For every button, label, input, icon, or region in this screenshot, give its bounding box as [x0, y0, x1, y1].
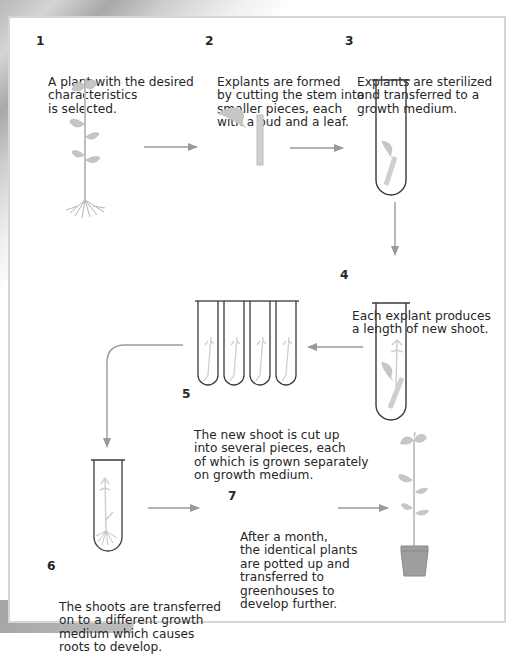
tube-explant-icon — [372, 80, 410, 195]
potted-plant-icon — [398, 432, 429, 576]
tube-shoot-icon — [372, 303, 410, 420]
arrow-5-to-6 — [107, 345, 183, 447]
parent-plant-icon — [66, 78, 105, 218]
tubes-pieces-icon — [195, 301, 299, 385]
explant-icon — [217, 108, 263, 165]
tube-roots-icon — [91, 460, 125, 551]
